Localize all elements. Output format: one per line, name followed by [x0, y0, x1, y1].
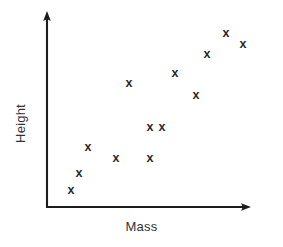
data-point-marker: x [68, 183, 75, 197]
data-point-marker: x [126, 76, 133, 90]
data-point-markers: xxxxxxxxxxxxx [68, 26, 247, 197]
data-point-marker: x [193, 88, 200, 102]
y-axis-label: Height [0, 0, 40, 247]
data-point-marker: x [159, 120, 166, 134]
plot-canvas: xxxxxxxxxxxxx [0, 0, 283, 247]
data-point-marker: x [113, 151, 120, 165]
data-point-marker: x [76, 166, 83, 180]
data-point-marker: x [223, 26, 230, 40]
x-axis-label-text: Mass [126, 219, 158, 234]
data-point-marker: x [85, 140, 92, 154]
y-axis-group [43, 11, 51, 207]
data-point-marker: x [147, 120, 154, 134]
data-point-marker: x [147, 151, 154, 165]
data-point-marker: x [240, 37, 247, 51]
scatter-plot-figure: xxxxxxxxxxxxx Mass Height [0, 0, 283, 247]
data-point-marker: x [172, 66, 179, 80]
x-axis-label: Mass [0, 219, 283, 234]
y-axis-label-text: Height [13, 104, 28, 143]
x-axis-group [46, 203, 251, 211]
data-point-marker: x [204, 47, 211, 61]
